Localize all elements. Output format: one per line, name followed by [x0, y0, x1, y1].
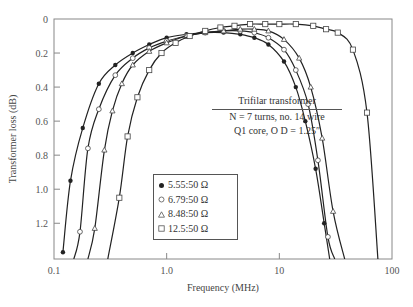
data-point-open-square	[125, 134, 130, 139]
y-tick-label: 0.2	[36, 48, 49, 59]
data-point-open-square	[277, 22, 282, 27]
legend-item: 8.48:50 Ω	[158, 207, 233, 222]
data-point-open-circle	[316, 158, 321, 163]
data-point-open-square	[135, 95, 140, 100]
data-point-open-circle	[78, 229, 83, 234]
y-tick-label: 0.4	[36, 82, 49, 93]
data-point-filled-circle	[313, 167, 317, 171]
data-point-filled-circle	[61, 250, 65, 254]
open-square-icon	[158, 225, 165, 232]
x-tick-label: 1.0	[160, 265, 173, 276]
data-point-open-square	[147, 67, 152, 72]
data-point-open-square	[263, 22, 268, 27]
data-point-open-square	[335, 30, 340, 35]
data-point-open-circle	[130, 56, 135, 61]
y-tick-label: 0.6	[36, 116, 49, 127]
data-point-filled-circle	[68, 179, 72, 183]
data-point-filled-circle	[282, 59, 286, 63]
chart-canvas: 00.20.40.60.81.01.20.11.010100 Frequency…	[0, 0, 413, 307]
data-point-open-square	[247, 22, 252, 27]
data-point-open-square	[203, 28, 208, 33]
data-point-filled-circle	[131, 51, 135, 55]
data-point-open-square	[323, 27, 328, 32]
data-point-open-triangle	[102, 147, 107, 152]
data-point-filled-circle	[113, 63, 117, 67]
series-line	[108, 24, 378, 259]
data-point-open-square	[350, 47, 355, 52]
y-axis-label: Transformer loss (dB)	[7, 95, 19, 184]
legend-item: 6.79:50 Ω	[158, 193, 233, 208]
data-point-open-square	[364, 110, 369, 115]
legend-label: 8.48:50 Ω	[168, 207, 208, 222]
data-point-open-square	[293, 22, 298, 27]
data-point-open-square	[117, 195, 122, 200]
annotation: Trifilar transformer N = 7 turns, no. 14…	[212, 94, 342, 138]
data-point-open-circle	[282, 47, 287, 52]
annotation-line2: Q1 core, O D = 1.25″	[212, 124, 342, 138]
data-point-open-circle	[293, 68, 298, 73]
x-tick-label: 0.1	[48, 265, 61, 276]
legend-label: 5.55:50 Ω	[168, 178, 208, 193]
data-point-filled-circle	[81, 126, 85, 130]
y-tick-label: 1.2	[36, 218, 49, 229]
data-point-open-circle	[96, 107, 101, 112]
data-point-open-square	[187, 33, 192, 38]
data-point-open-triangle	[330, 209, 335, 214]
data-point-open-circle	[266, 35, 271, 40]
annotation-line1: N = 7 turns, no. 14 wire	[212, 110, 342, 124]
legend-label: 6.79:50 Ω	[168, 193, 208, 208]
open-triangle-icon	[158, 211, 165, 218]
x-tick-label: 100	[385, 265, 400, 276]
data-point-open-square	[173, 40, 178, 45]
y-tick-label: 0	[43, 14, 48, 25]
data-point-open-circle	[113, 73, 118, 78]
y-tick-label: 1.0	[36, 184, 49, 195]
data-point-open-triangle	[92, 226, 97, 231]
data-point-open-circle	[326, 234, 331, 239]
annotation-title: Trifilar transformer	[212, 94, 342, 110]
data-point-filled-circle	[294, 85, 298, 89]
data-point-filled-circle	[266, 42, 270, 46]
data-point-filled-circle	[252, 36, 256, 40]
data-point-open-square	[218, 25, 223, 30]
open-circle-icon	[158, 196, 165, 203]
legend-item: 12.5:50 Ω	[158, 222, 233, 237]
data-point-open-square	[159, 50, 164, 55]
data-point-open-square	[311, 23, 316, 28]
y-tick-label: 0.8	[36, 150, 49, 161]
legend-item: 5.55:50 Ω	[158, 178, 233, 193]
data-point-open-triangle	[308, 84, 313, 89]
data-point-open-circle	[86, 146, 91, 151]
data-point-open-triangle	[119, 81, 124, 86]
data-point-open-triangle	[110, 108, 115, 113]
data-point-filled-circle	[97, 81, 101, 85]
x-tick-label: 10	[274, 265, 284, 276]
legend: 5.55:50 Ω 6.79:50 Ω 8.48:50 Ω 12.5:50 Ω	[153, 174, 238, 240]
legend-label: 12.5:50 Ω	[168, 222, 208, 237]
x-axis-label: Frequency (MHz)	[187, 282, 259, 294]
data-point-open-square	[232, 23, 237, 28]
filled-circle-icon	[158, 182, 165, 189]
